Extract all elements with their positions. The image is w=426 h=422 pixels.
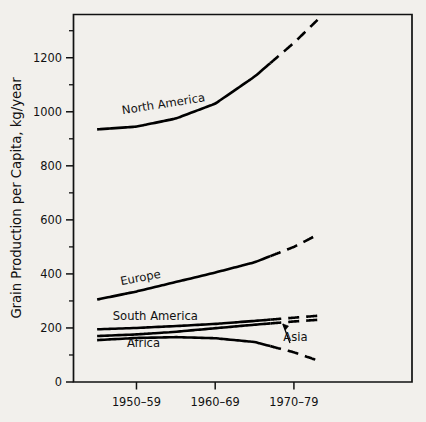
y-tick-label: 800 [40,159,62,173]
chart-figure: Grain Production per Capita, kg/year 020… [0,0,426,422]
series-labels: North AmericaEuropeSouth AmericaAsiaAfri… [113,90,308,350]
series-line-projected-africa [270,346,317,360]
y-tick-label: 600 [40,213,62,227]
series-label-south-america: South America [113,309,198,323]
series-label-asia: Asia [283,330,307,344]
y-tick-label: 0 [55,375,62,389]
series-line-projected-europe [270,235,317,256]
x-tick-label: 1960–69 [191,395,240,409]
x-axis-tick-labels: 1950–591960–691970–79 [112,395,319,409]
series-line-projected-north-america [270,20,317,63]
y-tick-label: 1200 [33,51,62,65]
x-tick-label: 1950–59 [112,395,161,409]
series-line-solid-africa [97,337,270,346]
y-axis-title: Grain Production per Capita, kg/year [9,77,24,319]
y-tick-label: 400 [40,267,62,281]
grain-production-line-chart: Grain Production per Capita, kg/year 020… [0,0,426,422]
series-label-europe: Europe [119,267,162,289]
x-tick-label: 1970–79 [269,395,318,409]
y-axis-tick-labels: 020040060080010001200 [33,51,62,389]
y-tick-label: 1000 [33,105,62,119]
series-label-africa: Africa [127,336,160,350]
y-tick-label: 200 [40,321,62,335]
y-axis-title-group: Grain Production per Capita, kg/year [9,77,24,319]
series-line-projected-asia [270,320,317,324]
